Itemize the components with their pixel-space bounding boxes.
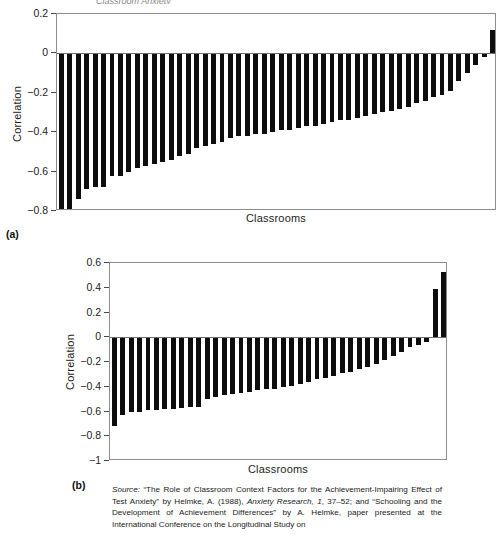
bar: [465, 53, 470, 73]
bar: [346, 53, 351, 120]
bar: [338, 53, 343, 120]
bar: [389, 53, 394, 110]
figure-panel-b: Correlation 0.60.40.20−0.2−0.4−0.6−0.8−1…: [0, 250, 503, 490]
chart-a-y-tick-label: −0.2: [27, 87, 48, 97]
bar: [137, 337, 142, 411]
source-journal: Anxiety Research, 1: [247, 497, 322, 506]
bar: [76, 53, 81, 199]
chart-b-y-axis: 0.60.40.20−0.2−0.4−0.6−0.8−1: [50, 262, 109, 460]
bar: [135, 53, 140, 167]
bar: [236, 53, 241, 136]
bar: [213, 337, 218, 396]
bar: [186, 53, 191, 153]
chart-b-y-tick-label: −0.2: [80, 356, 101, 366]
chart-b-y-tick-label: 0.2: [86, 307, 101, 317]
chart-a-y-tick-label: 0.2: [33, 8, 48, 18]
chart-a-plot-area: [56, 13, 496, 210]
bar: [205, 337, 210, 399]
bar: [230, 337, 235, 394]
bar: [171, 337, 176, 409]
bar: [315, 337, 320, 379]
bar: [313, 53, 318, 126]
bar: [391, 337, 396, 356]
bar: [253, 53, 258, 134]
bar: [179, 337, 184, 408]
bar: [296, 53, 301, 128]
bar: [448, 53, 453, 90]
chart-b-bars: [110, 263, 446, 459]
bar: [120, 337, 125, 415]
bar: [160, 53, 165, 161]
bar: [340, 337, 345, 373]
chart-a-y-tick-label: −0.8: [27, 205, 48, 215]
bar: [348, 337, 353, 372]
bar: [365, 337, 370, 367]
bar: [363, 53, 368, 116]
panel-b-label: (b): [72, 479, 85, 491]
bar: [433, 289, 438, 337]
bar: [203, 53, 208, 146]
bar: [490, 30, 495, 54]
bar: [441, 272, 446, 338]
bar: [408, 337, 413, 347]
source-label: Source:: [112, 485, 140, 494]
bar: [112, 337, 117, 426]
chart-a-bars: [57, 14, 495, 209]
chart-b-y-tick-label: −1: [89, 455, 101, 465]
chart-b-y-tick-label: 0: [95, 331, 101, 341]
bar: [397, 53, 402, 108]
bar: [380, 53, 385, 112]
chart-a-y-axis: 0.20−0.2−0.4−0.6−0.8: [0, 13, 56, 210]
bar: [440, 53, 445, 94]
source-note: Source: “The Role of Classroom Context F…: [112, 484, 442, 530]
bar: [287, 53, 292, 130]
bar: [177, 53, 182, 155]
bar: [473, 53, 478, 65]
bar: [304, 53, 309, 126]
chart-b-y-tick-label: −0.4: [80, 381, 101, 391]
bar: [247, 337, 252, 391]
bar: [118, 53, 123, 175]
bar: [93, 53, 98, 187]
bar: [146, 337, 151, 410]
chart-b-y-tick: [104, 460, 109, 461]
chart-a-y-tick-label: −0.4: [27, 126, 48, 136]
bar: [423, 53, 428, 100]
bar: [272, 337, 277, 389]
bar: [416, 337, 421, 344]
chart-a-y-tick-label: −0.6: [27, 166, 48, 176]
bar: [162, 337, 167, 409]
bar: [188, 337, 193, 406]
bar: [330, 53, 335, 122]
bar: [357, 337, 362, 369]
bar: [228, 53, 233, 138]
bar: [239, 337, 244, 393]
bar: [255, 337, 260, 390]
bar: [281, 337, 286, 387]
bar: [59, 53, 64, 210]
bar: [143, 53, 148, 165]
bar: [289, 337, 294, 385]
bar: [84, 53, 89, 189]
bar: [194, 53, 199, 148]
bar: [270, 53, 275, 132]
bar: [382, 337, 387, 359]
bar: [431, 53, 436, 96]
chart-a-y-tick-label: 0: [42, 47, 48, 57]
bar: [298, 337, 303, 384]
bar: [374, 337, 379, 364]
chart-b-zero-line: [110, 337, 446, 338]
bar: [306, 337, 311, 382]
bar: [154, 337, 159, 410]
panel-a-label: (a): [6, 228, 19, 240]
bar: [262, 53, 267, 134]
chart-b-y-tick-label: 0.4: [86, 282, 101, 292]
bar: [372, 53, 377, 114]
bar: [264, 337, 269, 389]
bar: [220, 53, 225, 142]
chart-a-y-tick: [51, 210, 56, 211]
bar: [245, 53, 250, 136]
bar: [129, 337, 134, 411]
bar: [101, 53, 106, 187]
chart-b-y-tick-label: −0.8: [80, 430, 101, 440]
